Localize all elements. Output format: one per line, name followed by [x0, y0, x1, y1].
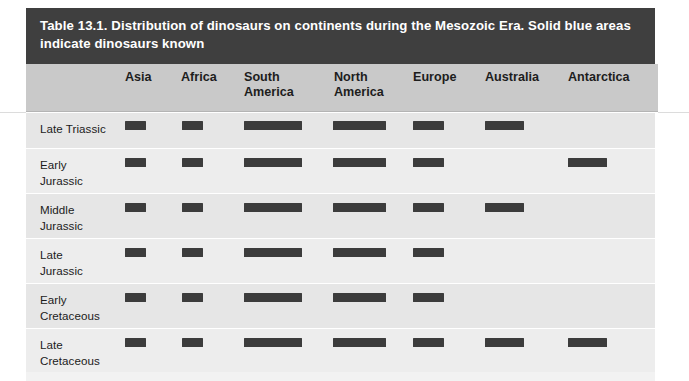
- table-row: Middle Jurassic: [26, 193, 655, 238]
- row-label: Early Jurassic: [40, 157, 83, 191]
- presence-bar: [125, 203, 146, 212]
- presence-bar: [244, 338, 302, 347]
- presence-bar: [182, 121, 203, 130]
- table-13-1: Table 13.1. Distribution of dinosaurs on…: [26, 8, 658, 375]
- page-root: Table 13.1. Distribution of dinosaurs on…: [0, 0, 689, 381]
- presence-bar: [413, 121, 444, 130]
- presence-bar: [413, 158, 444, 167]
- presence-bar: [244, 293, 302, 302]
- presence-bar: [333, 121, 386, 130]
- table-column-header-row: AsiaAfricaSouth AmericaNorth AmericaEuro…: [26, 64, 658, 112]
- presence-bar: [485, 338, 524, 347]
- table-row: Late Jurassic: [26, 238, 655, 283]
- scan-artifact-right: [658, 112, 689, 113]
- table-body: Late TriassicEarly JurassicMiddle Jurass…: [26, 112, 658, 375]
- presence-bar: [568, 158, 607, 167]
- table-caption-text: Table 13.1. Distribution of dinosaurs on…: [40, 17, 641, 53]
- scan-artifact-bottom: [26, 372, 655, 381]
- column-header-north-america: North America: [334, 70, 384, 101]
- table-row: Early Cretaceous: [26, 283, 655, 328]
- presence-bar: [333, 338, 386, 347]
- presence-bar: [413, 203, 444, 212]
- presence-bar: [125, 158, 146, 167]
- presence-bar: [333, 248, 386, 257]
- presence-bar: [333, 293, 386, 302]
- table-caption-bar: Table 13.1. Distribution of dinosaurs on…: [26, 8, 655, 64]
- presence-bar: [182, 338, 203, 347]
- presence-bar: [485, 121, 524, 130]
- presence-bar: [413, 338, 444, 347]
- presence-bar: [485, 203, 524, 212]
- presence-bar: [568, 338, 607, 347]
- presence-bar: [244, 121, 302, 130]
- presence-bar: [244, 158, 302, 167]
- column-header-europe: Europe: [413, 70, 456, 86]
- column-header-south-america: South America: [244, 70, 294, 101]
- row-label: Middle Jurassic: [40, 202, 83, 236]
- column-header-antarctica: Antarctica: [568, 70, 630, 86]
- presence-bar: [413, 248, 444, 257]
- presence-bar: [125, 293, 146, 302]
- presence-bar: [333, 158, 386, 167]
- presence-bar: [125, 248, 146, 257]
- presence-bar: [244, 248, 302, 257]
- presence-bar: [125, 121, 146, 130]
- row-label: Late Jurassic: [40, 247, 83, 281]
- presence-bar: [125, 338, 146, 347]
- presence-bar: [182, 248, 203, 257]
- row-label: Late Triassic: [40, 121, 106, 138]
- presence-bar: [182, 293, 203, 302]
- column-header-australia: Australia: [485, 70, 539, 86]
- column-header-africa: Africa: [181, 70, 217, 86]
- table-row: Late Cretaceous: [26, 328, 655, 375]
- scan-artifact-left: [0, 112, 27, 113]
- presence-bar: [244, 203, 302, 212]
- row-label: Early Cretaceous: [40, 292, 100, 326]
- presence-bar: [333, 203, 386, 212]
- row-label: Late Cretaceous: [40, 337, 100, 371]
- table-row: Late Triassic: [26, 112, 655, 148]
- presence-bar: [182, 158, 203, 167]
- column-header-asia: Asia: [125, 70, 152, 86]
- presence-bar: [182, 203, 203, 212]
- presence-bar: [413, 293, 444, 302]
- table-row: Early Jurassic: [26, 148, 655, 193]
